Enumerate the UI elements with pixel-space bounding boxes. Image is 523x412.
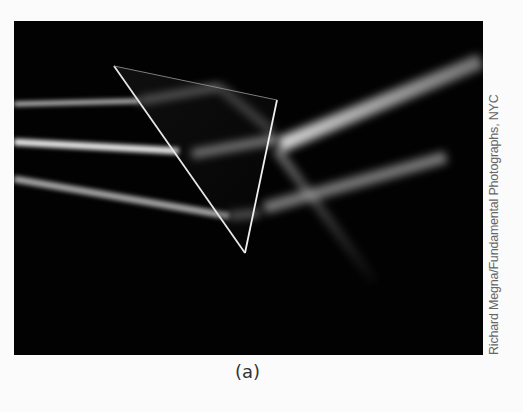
photo-credit: Richard Megna/Fundamental Photographs, N… <box>487 95 501 356</box>
exiting-beams <box>264 61 481 281</box>
prism <box>114 66 277 253</box>
figure-label: (a) <box>0 361 495 382</box>
prism-photo <box>14 21 483 355</box>
prism-beams-illustration <box>14 21 483 355</box>
